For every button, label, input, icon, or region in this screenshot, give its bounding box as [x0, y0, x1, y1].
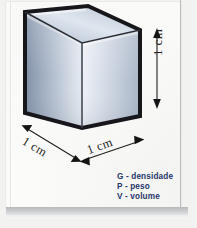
legend-item-density: G - densidade: [117, 172, 173, 182]
height-label: 1 cm: [150, 29, 166, 56]
legend-item-volume: V - volume: [117, 192, 173, 202]
page-margin-rule: [10, 2, 11, 207]
page-bottom-shadow-fade: [6, 215, 188, 219]
page-gutter-line: [180, 0, 181, 208]
figure-page: 1 cm 1 cm 1 cm G - densidade P - peso V …: [0, 0, 197, 228]
legend: G - densidade P - peso V - volume: [117, 172, 173, 203]
page-bottom-shadow: [6, 207, 188, 215]
legend-item-weight: P - peso: [117, 182, 173, 192]
